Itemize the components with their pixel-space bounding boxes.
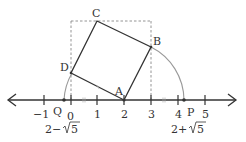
svg-text:5: 5 (197, 123, 204, 136)
tick-label-2: 2 (121, 108, 128, 121)
point-q-dot (62, 98, 66, 102)
tick-label-neg1: −1 (33, 108, 49, 121)
arc-a-to-p (151, 47, 184, 100)
point-p-dot (182, 98, 186, 102)
svg-text:2+: 2+ (171, 123, 187, 136)
square-abcd (71, 21, 151, 100)
tick-label-1: 1 (94, 108, 101, 121)
label-a: A (114, 85, 124, 98)
label-d: D (60, 61, 69, 74)
point-a-dot (122, 98, 125, 101)
p-value-label: 2+ 5 (171, 122, 206, 136)
dashed-rectangle (71, 21, 151, 100)
point-d-dot (70, 72, 73, 75)
svg-text:2−: 2− (45, 123, 61, 136)
diagram-canvas: C B D A P Q −1 0 1 2 3 4 5 2− 5 2+ 5 (0, 0, 246, 142)
q-value-label: 2− 5 (45, 122, 80, 136)
label-q: Q (53, 105, 62, 118)
point-b-dot (150, 46, 153, 49)
label-c: C (92, 7, 100, 20)
tick-label-0: 0 (67, 110, 74, 123)
label-b: B (153, 35, 161, 48)
tick-label-3: 3 (148, 108, 155, 121)
tick-label-4: 4 (175, 108, 182, 121)
tick-label-5: 5 (202, 108, 209, 121)
label-p: P (187, 106, 195, 119)
svg-text:5: 5 (71, 123, 78, 136)
